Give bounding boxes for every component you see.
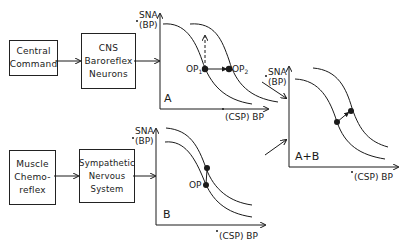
panel-ab-ylabel-sna: SNA xyxy=(268,67,287,77)
panel-a-letter: A xyxy=(164,92,172,105)
panel-a-op2-label: OP2 xyxy=(232,64,248,77)
op1-text: OP xyxy=(186,64,199,74)
panel-ab-ylabel-bp: (BP) xyxy=(268,77,287,87)
panel-a-ylabel-sna: SNA xyxy=(139,10,158,20)
op2-text: OP xyxy=(232,64,245,74)
panel-a-op1-label: OP1 xyxy=(186,64,202,77)
panel-b-ylabel-bp: (BP) xyxy=(135,136,154,146)
panel-ab-letter: A+B xyxy=(295,150,319,163)
op2-sub: 2 xyxy=(245,68,249,75)
panel-b-xlabel: (CSP) BP xyxy=(219,231,258,241)
panel-a-xlabel: (CSP) BP xyxy=(225,112,264,122)
panel-b-op-label: OP xyxy=(189,180,202,190)
panel-a-ylabel-bp: (BP) xyxy=(139,20,158,30)
panel-b-letter: B xyxy=(163,208,171,221)
op1-sub: 1 xyxy=(199,68,203,75)
diagram-graphics xyxy=(0,0,408,247)
panel-b-ylabel-sna: SNA xyxy=(135,126,154,136)
panel-ab-xlabel: (CSP) BP xyxy=(354,172,393,182)
